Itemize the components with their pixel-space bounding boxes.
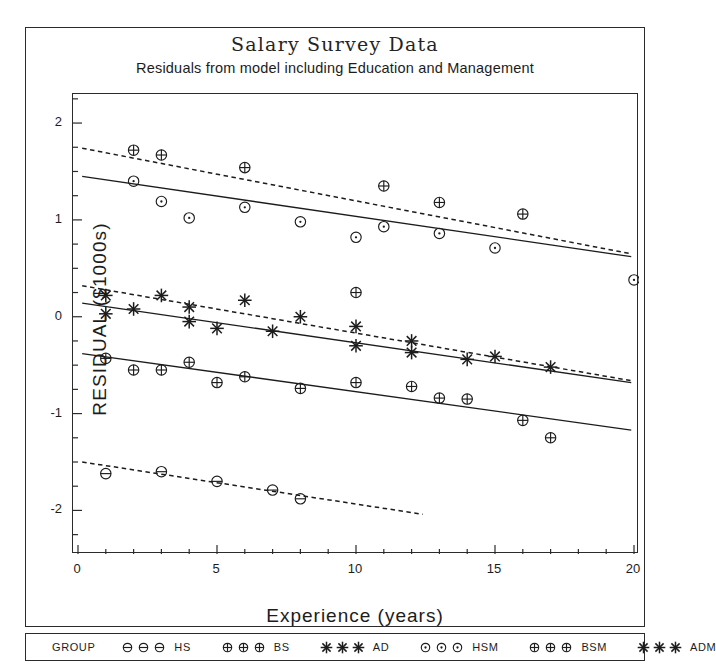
data-point-AD-6: [405, 346, 419, 360]
series-HSM: [82, 176, 639, 285]
legend-symbols-AD: [320, 641, 365, 654]
plot-area: [72, 93, 638, 553]
circle-plus-icon-glyph: [239, 643, 247, 651]
legend-label-HS: HS: [174, 641, 190, 653]
data-point-BSM-1: [156, 150, 166, 160]
legend-label-ADM: ADM: [690, 641, 716, 653]
data-point-HSM-0: [128, 176, 138, 186]
data-point-BS-7: [351, 377, 361, 387]
data-point-BS-0: [101, 353, 111, 363]
circle-cross-icon: [560, 641, 573, 654]
data-point-ADM-2: [182, 300, 196, 314]
data-point-BS-5: [240, 372, 250, 382]
data-point-BSM-4: [379, 181, 389, 191]
data-point-HS-0: [101, 468, 111, 478]
legend-title: GROUP: [52, 641, 95, 653]
data-point-AD-3: [210, 322, 224, 336]
legend-symbols-BS: [221, 641, 266, 654]
circle-plus-icon: [237, 641, 250, 654]
data-point-BS-1: [128, 365, 138, 375]
circle-dot-icon-glyph: [437, 643, 445, 651]
data-point-HSM-1: [156, 196, 166, 206]
data-point-HSM-2: [184, 213, 194, 223]
data-point-AD-2: [182, 315, 196, 329]
plot-canvas: [73, 94, 639, 554]
data-point-ADM-0: [99, 289, 113, 303]
data-point-HSM-9: [629, 275, 639, 285]
circle-dot-icon: [435, 641, 448, 654]
data-point-HSM-5: [351, 232, 361, 242]
legend-label-HSM: HSM: [472, 641, 498, 653]
data-point-BSM-5: [434, 197, 444, 207]
asterisk-icon-glyph: [670, 641, 682, 653]
asterisk-icon-glyph: [352, 641, 364, 653]
legend-label-AD: AD: [373, 641, 389, 653]
asterisk-icon: [320, 641, 333, 654]
circle-plus-icon: [221, 641, 234, 654]
circle-minus-icon-glyph: [124, 643, 132, 651]
circle-cross-icon-glyph: [563, 643, 571, 651]
circle-minus-icon: [121, 641, 134, 654]
circle-minus-icon-glyph: [140, 643, 148, 651]
data-point-BSM-0: [128, 145, 138, 155]
circle-plus-icon-glyph: [223, 643, 231, 651]
circle-cross-icon: [544, 641, 557, 654]
data-point-BS-10: [462, 394, 472, 404]
data-point-AD-1: [127, 302, 141, 316]
fit-line-HSM: [82, 176, 631, 256]
series-HS: [82, 462, 423, 514]
data-point-ADM-6: [405, 334, 419, 348]
legend-symbols-ADM: [637, 641, 682, 654]
data-point-HSM-4: [295, 217, 305, 227]
asterisk-icon-glyph: [320, 641, 332, 653]
data-point-BS-4: [212, 377, 222, 387]
data-point-HS-2: [212, 476, 222, 486]
legend-label-BS: BS: [274, 641, 290, 653]
data-point-AD-4: [266, 324, 280, 338]
circle-plus-icon-glyph: [255, 643, 263, 651]
circle-cross-icon: [528, 641, 541, 654]
circle-dot-icon-glyph: [453, 643, 461, 651]
legend-symbols-HS: [121, 641, 166, 654]
data-point-BS-3: [184, 357, 194, 367]
asterisk-icon-glyph: [638, 641, 650, 653]
asterisk-icon: [637, 641, 650, 654]
data-point-HS-3: [267, 485, 277, 495]
legend-inner: GROUP HSBSADHSMBSMADM: [26, 641, 644, 654]
data-point-HS-1: [156, 466, 166, 476]
legend-symbols-HSM: [419, 641, 464, 654]
legend-entry-BS: BS: [221, 641, 290, 654]
circle-cross-icon-glyph: [547, 643, 555, 651]
data-point-ADM-7: [488, 350, 502, 364]
data-point-AD-5: [349, 339, 363, 353]
data-point-BS-8: [406, 381, 416, 391]
fit-line-HS: [82, 462, 423, 514]
circle-dot-icon-glyph: [421, 643, 429, 651]
legend: GROUP HSBSADHSMBSMADM: [25, 633, 645, 661]
series-BSM: [82, 145, 631, 298]
circle-minus-icon-glyph: [156, 643, 164, 651]
asterisk-icon: [653, 641, 666, 654]
data-point-ADM-1: [155, 289, 169, 303]
data-point-HS-4: [295, 494, 305, 504]
data-point-HSM-6: [379, 221, 389, 231]
data-point-AD-0: [99, 307, 113, 321]
data-point-HSM-8: [490, 243, 500, 253]
data-point-ADM-5: [349, 320, 363, 334]
legend-entry-HS: HS: [121, 641, 190, 654]
circle-minus-icon: [137, 641, 150, 654]
data-point-AD-7: [460, 353, 474, 367]
circle-minus-icon: [153, 641, 166, 654]
legend-symbols-BSM: [528, 641, 573, 654]
legend-entry-ADM: ADM: [637, 641, 716, 654]
data-point-BS-11: [518, 415, 528, 425]
data-point-BS-2: [156, 365, 166, 375]
asterisk-icon: [336, 641, 349, 654]
legend-entry-BSM: BSM: [528, 641, 607, 654]
circle-dot-icon: [419, 641, 432, 654]
data-point-ADM-8: [544, 360, 558, 374]
data-point-HSM-7: [434, 228, 444, 238]
data-point-BSM-6: [518, 209, 528, 219]
data-point-BSM-3: [351, 287, 361, 297]
